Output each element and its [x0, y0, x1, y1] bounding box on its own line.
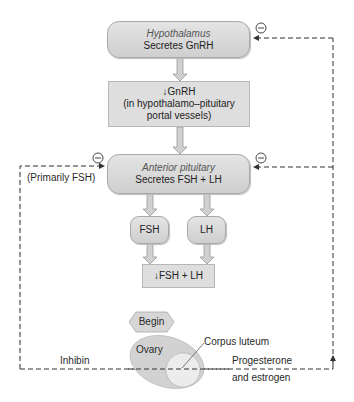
arrow-gnrh-to-pituitary	[173, 127, 187, 154]
arrow-fsh-to-decrease	[143, 244, 157, 264]
gnrh-line2: (in hypothalamo–pituitary	[123, 98, 235, 110]
gnrh-line3: portal vessels)	[147, 110, 211, 122]
pituitary-subtitle: Secretes FSH + LH	[135, 174, 221, 186]
hypothalamus-subtitle: Secretes GnRH	[143, 40, 213, 52]
lh-label: LH	[200, 224, 213, 236]
arrow-lh-to-decrease	[200, 244, 214, 264]
hypothalamus-box: Hypothalamus Secretes GnRH	[107, 21, 250, 58]
gnrh-box: ↓GnRH (in hypothalamo–pituitary portal v…	[108, 81, 250, 127]
lh-box: LH	[187, 216, 226, 244]
decreased-fsh-lh-box: ↓FSH + LH	[142, 264, 215, 288]
feedback-to-pituitary-left	[20, 166, 104, 369]
ovary-label: Ovary	[136, 344, 163, 356]
arrow-pituitary-to-lh	[200, 194, 214, 216]
primarily-fsh-label: (Primarily FSH)	[27, 172, 95, 184]
gnrh-line1: ↓GnRH	[163, 86, 196, 98]
pituitary-title: Anterior pituitary	[142, 162, 215, 174]
hypothalamus-title: Hypothalamus	[147, 28, 211, 40]
corpus-luteum-label: Corpus luteum	[204, 336, 269, 348]
fsh-label: FSH	[140, 224, 160, 236]
decreased-fsh-lh-label: ↓FSH + LH	[154, 270, 203, 282]
estrogen-label: and estrogen	[232, 372, 290, 384]
inhibin-label: Inhibin	[60, 355, 89, 367]
diagram-canvas	[0, 0, 354, 402]
begin-label: Begin	[129, 316, 174, 328]
arrow-hypothalamus-to-gnrh	[173, 58, 187, 81]
fsh-box: FSH	[130, 216, 169, 244]
arrow-pituitary-to-fsh	[143, 194, 157, 216]
progesterone-label: Progesterone	[232, 355, 292, 367]
anterior-pituitary-box: Anterior pituitary Secretes FSH + LH	[107, 154, 250, 194]
corpus-luteum-shape	[166, 353, 200, 387]
